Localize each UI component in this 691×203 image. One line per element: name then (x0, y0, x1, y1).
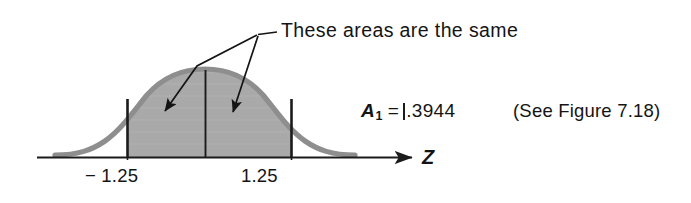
figure-cross-reference: (See Figure 7.18) (513, 102, 660, 121)
x-tick-label-positive: 1.25 (241, 167, 278, 186)
annotation-label: These areas are the same (281, 21, 518, 41)
area-symbol: A (361, 100, 375, 121)
normal-curve-figure: These areas are the same − 1.25 1.25 Z A… (0, 0, 691, 203)
z-axis-label: Z (422, 147, 434, 167)
area-value: .3944 (406, 100, 455, 121)
annotation-leader-dash (258, 32, 277, 35)
area-subscript: 1 (375, 109, 383, 123)
equals-sign: = (383, 100, 403, 121)
area-equation: A1=.3944 (361, 101, 455, 123)
stray-vertical-mark (403, 103, 405, 120)
x-tick-label-negative: − 1.25 (85, 167, 138, 186)
